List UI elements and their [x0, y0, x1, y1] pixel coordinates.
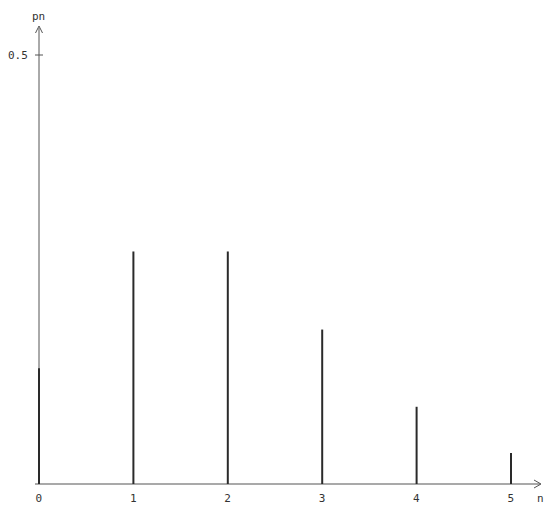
x-tick-label: 3: [319, 492, 326, 505]
x-tick-label: 5: [508, 492, 515, 505]
x-tick-label: 2: [224, 492, 231, 505]
y-tick-label: 0.5: [8, 49, 28, 62]
y-axis-label: pn: [32, 10, 45, 23]
x-tick-label: 4: [413, 492, 420, 505]
axes: 0.5 pn n: [8, 10, 544, 505]
stem-chart: 0.5 pn n 012345: [0, 0, 560, 511]
x-axis-label: n: [537, 492, 544, 505]
x-tick-label: 0: [36, 492, 43, 505]
x-tick-label: 1: [130, 492, 137, 505]
stems: [39, 251, 511, 484]
x-ticks: 012345: [36, 492, 515, 505]
